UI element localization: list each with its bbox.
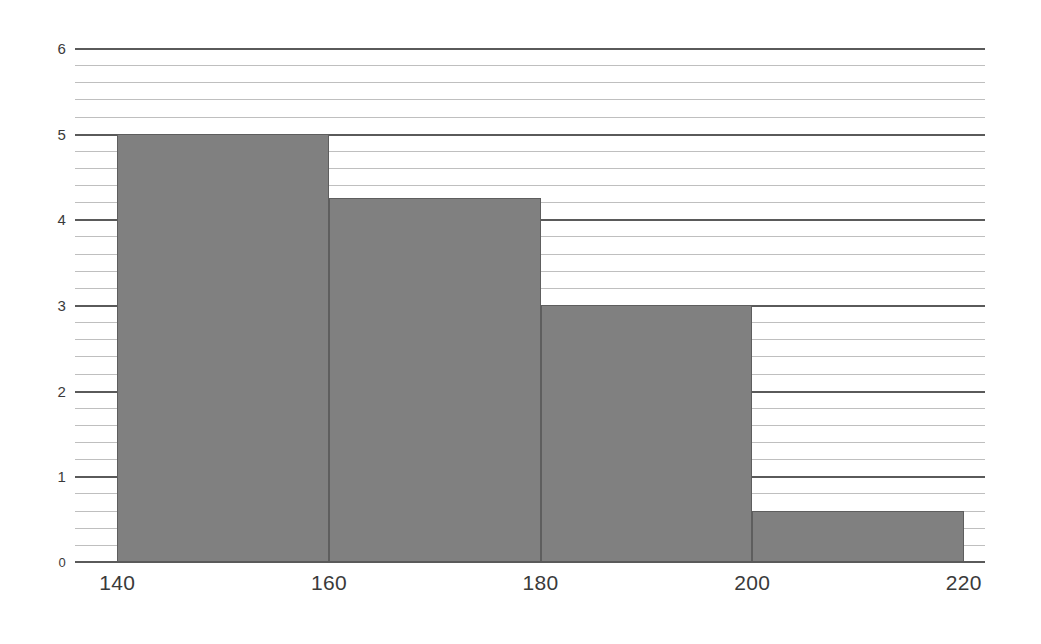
- x-axis-line: [75, 561, 985, 563]
- y-axis-tick-label: 5: [26, 126, 66, 141]
- x-axis-tick-label: 160: [284, 570, 374, 596]
- y-axis-tick-label: 2: [26, 383, 66, 398]
- y-axis-tick-labels: 0123456: [18, 48, 66, 562]
- histogram-chart: 0123456 140160180200220: [0, 0, 1041, 644]
- gridline-major: [75, 48, 985, 50]
- y-axis-tick-label: 3: [26, 298, 66, 313]
- y-axis-tick-label: 1: [26, 469, 66, 484]
- gridline-minor: [75, 82, 985, 83]
- histogram-bar: [117, 134, 329, 562]
- x-axis-tick-labels: 140160180200220: [0, 570, 1041, 610]
- x-axis-tick-label: 140: [72, 570, 162, 596]
- plot-area: [75, 48, 985, 562]
- histogram-bar: [752, 511, 964, 562]
- y-axis-tick-label: 4: [26, 212, 66, 227]
- x-axis-tick-label: 220: [919, 570, 1009, 596]
- histogram-bar: [541, 305, 753, 562]
- gridline-minor: [75, 65, 985, 66]
- gridline-minor: [75, 99, 985, 100]
- y-axis-tick-label: 6: [26, 41, 66, 56]
- gridline-minor: [75, 117, 985, 118]
- y-axis-tick-label: 0: [26, 556, 66, 569]
- x-axis-tick-label: 180: [496, 570, 586, 596]
- histogram-bar: [329, 198, 541, 562]
- histogram-screenshot: 0123456 140160180200220: [0, 0, 1041, 644]
- x-axis-tick-label: 200: [707, 570, 797, 596]
